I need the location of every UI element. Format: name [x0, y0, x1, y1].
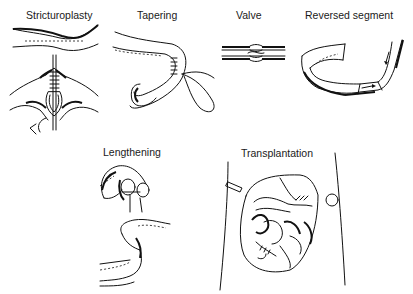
surgical-procedures-diagram	[0, 0, 413, 294]
reversed-segment-illustration	[302, 40, 403, 95]
lengthening-illustration	[100, 166, 170, 286]
stricturoplasty-illustration	[10, 25, 98, 134]
valve-illustration	[222, 45, 285, 62]
tapering-illustration	[113, 32, 214, 112]
transplantation-illustration	[220, 153, 345, 290]
